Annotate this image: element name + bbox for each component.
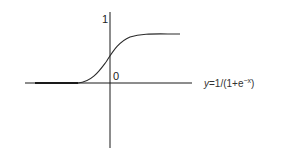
y-tick-label-one: 1	[102, 13, 108, 25]
sigmoid-curve	[35, 34, 180, 83]
origin-label: 0	[113, 70, 119, 82]
formula-rhs: 1/(1+e	[215, 78, 244, 89]
formula-close: )	[251, 78, 254, 89]
formula-label: y=1/(1+e−x)	[203, 77, 254, 89]
sigmoid-diagram: 1 0 y=1/(1+e−x)	[0, 0, 285, 156]
